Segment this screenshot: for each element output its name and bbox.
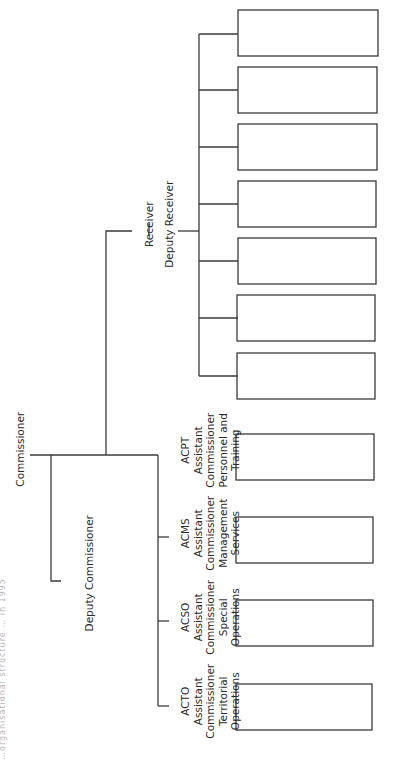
commissioner-label: Commissioner <box>14 409 27 489</box>
receiver-connector <box>106 231 132 455</box>
receiver-unit-box-2 <box>238 67 377 113</box>
acpt-box <box>236 434 374 480</box>
acso-label: ACSO Assistant Commissioner Special Oper… <box>179 569 242 665</box>
receiver-unit-box-7 <box>237 353 375 399</box>
deputy-commissioner-label: Deputy Commissioner <box>83 508 96 638</box>
acms-box <box>236 517 373 563</box>
receiver-label: Receiver <box>143 189 156 259</box>
receiver-unit-box-6 <box>237 295 375 341</box>
chart-title-fragment: …organisational structure … in 1995 <box>0 578 7 760</box>
receiver-unit-box-4 <box>238 181 376 227</box>
receiver-unit-box-5 <box>238 238 376 284</box>
acto-box <box>236 684 372 730</box>
deputy-receiver-label: Deputy Receiver <box>163 179 176 269</box>
acms-label: ACMS Assistant Commissioner Management S… <box>179 485 242 581</box>
deputy-commissioner-connector <box>51 455 61 581</box>
receiver-unit-box-3 <box>238 124 377 170</box>
acto-label: ACTO Assistant Commissioner Territorial … <box>179 653 242 749</box>
acpt-label: ACPT Assistant Commissioner Personnel an… <box>179 402 242 498</box>
receiver-unit-box-1 <box>238 10 378 56</box>
acso-box <box>236 600 373 646</box>
